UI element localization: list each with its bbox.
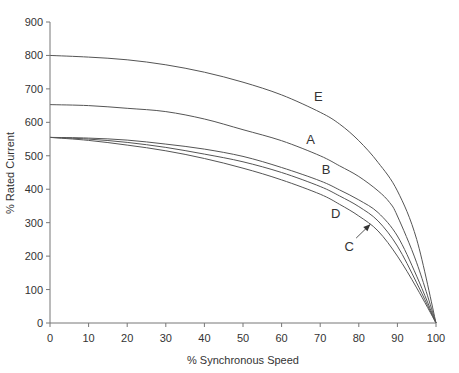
x-tick-label: 90 <box>391 332 403 344</box>
y-tick-label: 200 <box>25 250 43 262</box>
curve-label-d: D <box>331 206 340 221</box>
curve-d <box>50 137 436 323</box>
x-tick-label: 30 <box>160 332 172 344</box>
curve-label-e: E <box>314 89 323 104</box>
curve-e <box>50 55 436 323</box>
curve-label-a: A <box>306 132 315 147</box>
y-tick-label: 100 <box>25 284 43 296</box>
y-tick-label: 500 <box>25 150 43 162</box>
x-axis-title: % Synchronous Speed <box>187 354 299 366</box>
y-tick-label: 300 <box>25 217 43 229</box>
curve-label-c: C <box>344 239 353 254</box>
y-tick-label: 900 <box>25 16 43 28</box>
curve-label-b: B <box>322 162 331 177</box>
x-tick-label: 40 <box>198 332 210 344</box>
x-tick-label: 0 <box>47 332 53 344</box>
chart: EABDC 0100200300400500600700800900010203… <box>0 0 459 373</box>
curve-c <box>50 137 436 323</box>
y-tick-label: 700 <box>25 83 43 95</box>
x-tick-label: 80 <box>353 332 365 344</box>
y-tick-label: 600 <box>25 116 43 128</box>
x-tick-label: 10 <box>82 332 94 344</box>
axes: 0100200300400500600700800900010203040506… <box>25 16 446 344</box>
y-tick-label: 0 <box>37 317 43 329</box>
y-tick-label: 400 <box>25 183 43 195</box>
y-tick-label: 800 <box>25 49 43 61</box>
x-tick-label: 70 <box>314 332 326 344</box>
x-tick-label: 50 <box>237 332 249 344</box>
x-tick-label: 60 <box>275 332 287 344</box>
y-axis-title: % Rated Current <box>4 132 16 214</box>
x-tick-label: 20 <box>121 332 133 344</box>
curve-a <box>50 105 436 323</box>
plot-area: EABDC <box>50 55 436 323</box>
x-tick-label: 100 <box>427 332 445 344</box>
curve-b <box>50 137 436 323</box>
